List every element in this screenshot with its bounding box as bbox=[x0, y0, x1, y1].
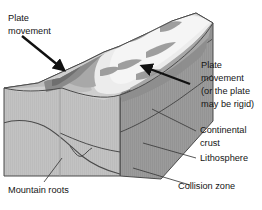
plate-movement-left-line1: Plate bbox=[8, 13, 29, 23]
plate-movement-right-line3: (or the plate bbox=[201, 86, 250, 96]
label-lithosphere: Lithosphere bbox=[200, 153, 248, 163]
collision-zone-diagram: Plate movement Plate movement (or the pl… bbox=[0, 0, 262, 210]
label-collision-zone: Collision zone bbox=[178, 181, 235, 191]
plate-movement-right-line1: Plate bbox=[201, 60, 222, 70]
plate-movement-right-line4: may be rigid) bbox=[201, 99, 254, 109]
block-diagram-figure: Plate movement Plate movement (or the pl… bbox=[0, 0, 262, 210]
continental-crust-line1: Continental bbox=[200, 125, 246, 135]
label-mountain-roots: Mountain roots bbox=[8, 185, 69, 195]
continental-crust-line2: crust bbox=[200, 138, 220, 148]
plate-movement-right-line2: movement bbox=[201, 73, 244, 83]
plate-movement-left-line2: movement bbox=[8, 26, 51, 36]
